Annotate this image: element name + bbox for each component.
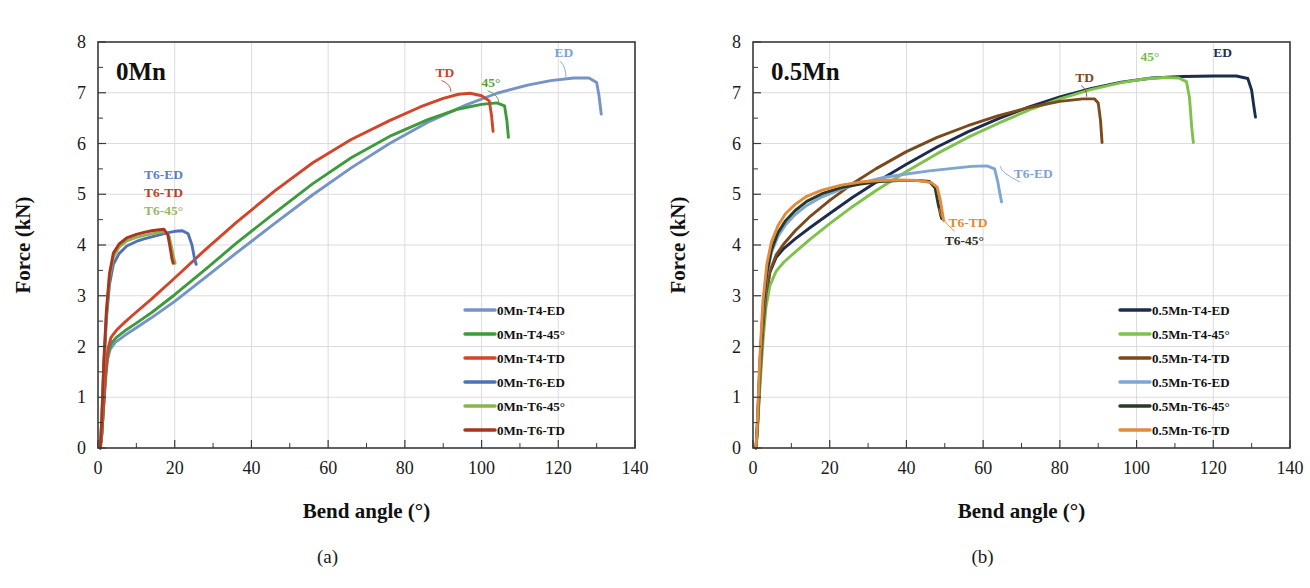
x-tick-label: 60 [974, 458, 992, 478]
chart-svg-b: 020406080100120140012345678Bend angle (°… [655, 0, 1310, 548]
chart-svg-a: 020406080100120140012345678Bend angle (°… [0, 0, 655, 548]
y-tick-label: 7 [77, 83, 86, 103]
x-tick-label: 80 [1051, 458, 1069, 478]
x-tick-label: 40 [897, 458, 915, 478]
curve-annotation: T6-45° [144, 203, 183, 218]
y-tick-label: 8 [732, 32, 741, 52]
series-group [100, 78, 601, 448]
y-tick-label: 5 [732, 184, 741, 204]
legend-label: 0Mn-T6-45° [497, 399, 565, 414]
curve-annotation: T6-ED [1014, 166, 1053, 181]
chart-panel-a: 020406080100120140012345678Bend angle (°… [0, 0, 655, 588]
panel-title: 0.5Mn [771, 58, 840, 85]
subfigure-caption-b: (b) [971, 546, 993, 567]
y-tick-label: 4 [77, 235, 86, 255]
y-tick-label: 1 [77, 387, 86, 407]
y-tick-label: 8 [77, 32, 86, 52]
curve-annotation: 45° [482, 75, 501, 90]
annotation-leader [560, 61, 566, 77]
curve-annotation: 45° [1140, 49, 1159, 64]
curve-annotation: T6-45° [945, 233, 984, 248]
legend-label: 0Mn-T6-TD [497, 423, 565, 438]
curve-annotation: ED [1213, 45, 1232, 60]
x-tick-label: 100 [468, 458, 495, 478]
series-curve [756, 78, 1193, 448]
series-curve [756, 181, 942, 448]
y-tick-label: 6 [77, 134, 86, 154]
y-tick-label: 4 [732, 235, 741, 255]
series-curve [100, 103, 508, 448]
x-tick-label: 20 [166, 458, 184, 478]
x-axis-title: Bend angle (°) [958, 499, 1085, 523]
legend: 0Mn-T4-ED0Mn-T4-45°0Mn-T4-TD0Mn-T6-ED0Mn… [465, 303, 565, 438]
y-tick-label: 2 [77, 337, 86, 357]
panel-title: 0Mn [116, 58, 166, 85]
x-tick-label: 140 [622, 458, 649, 478]
series-curve [756, 76, 1255, 448]
curve-annotation: ED [554, 45, 573, 60]
y-tick-label: 5 [77, 184, 86, 204]
y-axis-title: Force (kN) [666, 197, 690, 294]
legend-label: 0.5Mn-T4-ED [1152, 303, 1230, 318]
legend-label: 0.5Mn-T6-TD [1152, 423, 1230, 438]
series-curve [100, 93, 493, 448]
series-group [756, 76, 1255, 448]
annotation-leader [442, 81, 451, 92]
legend-label: 0Mn-T6-ED [497, 375, 565, 390]
chart-panel-b: 020406080100120140012345678Bend angle (°… [655, 0, 1310, 588]
x-tick-label: 0 [749, 458, 758, 478]
legend-label: 0.5Mn-T6-ED [1152, 375, 1230, 390]
y-tick-label: 3 [732, 286, 741, 306]
x-axis-title: Bend angle (°) [303, 499, 430, 523]
curve-annotation: T6-TD [144, 185, 183, 200]
legend-label: 0Mn-T4-ED [497, 303, 565, 318]
x-tick-label: 20 [821, 458, 839, 478]
y-tick-label: 0 [77, 438, 86, 458]
legend-label: 0.5Mn-T4-45° [1152, 327, 1230, 342]
x-tick-label: 0 [94, 458, 103, 478]
y-tick-label: 7 [732, 83, 741, 103]
x-tick-label: 120 [1200, 458, 1227, 478]
y-tick-label: 3 [77, 286, 86, 306]
curve-annotation: TD [436, 65, 455, 80]
x-tick-label: 140 [1277, 458, 1304, 478]
curve-annotation: T6-TD [949, 215, 988, 230]
x-tick-label: 120 [545, 458, 572, 478]
x-tick-label: 80 [396, 458, 414, 478]
y-tick-label: 2 [732, 337, 741, 357]
x-tick-label: 60 [319, 458, 337, 478]
legend-label: 0.5Mn-T6-45° [1152, 399, 1230, 414]
legend-label: 0Mn-T4-TD [497, 351, 565, 366]
x-tick-label: 40 [242, 458, 260, 478]
y-tick-label: 1 [732, 387, 741, 407]
curve-annotation: TD [1075, 70, 1094, 85]
y-axis-title: Force (kN) [11, 197, 35, 294]
curve-annotation: T6-ED [144, 167, 183, 182]
y-tick-label: 6 [732, 134, 741, 154]
subfigure-caption-a: (a) [317, 546, 338, 567]
x-tick-label: 100 [1123, 458, 1150, 478]
y-tick-label: 0 [732, 438, 741, 458]
figure-root: 020406080100120140012345678Bend angle (°… [0, 0, 1310, 588]
legend-label: 0.5Mn-T4-TD [1152, 351, 1230, 366]
legend-label: 0Mn-T4-45° [497, 327, 565, 342]
